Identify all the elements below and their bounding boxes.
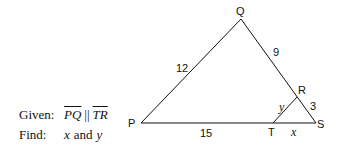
vertex-t: T	[268, 126, 275, 138]
side-pq	[141, 19, 241, 123]
triangle-diagram: P Q R S T 12 9 3 15 x y	[0, 0, 343, 146]
segment-tr-line	[273, 97, 297, 123]
vertex-s: S	[317, 118, 324, 130]
side-label-tr: y	[278, 100, 285, 114]
vertex-r: R	[298, 84, 306, 96]
vertex-p: P	[128, 117, 135, 129]
side-label-pq: 12	[176, 62, 188, 74]
side-label-ts: x	[290, 125, 297, 139]
side-label-rs: 3	[310, 100, 316, 112]
side-label-qr: 9	[273, 46, 279, 58]
side-label-pt: 15	[200, 127, 212, 139]
vertex-q: Q	[236, 5, 245, 17]
